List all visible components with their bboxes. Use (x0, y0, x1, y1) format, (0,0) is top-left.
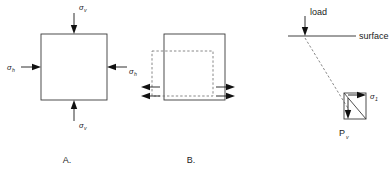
panel-b-original-outline (152, 51, 213, 96)
panel-a-left-stress-subscript: h (12, 67, 15, 73)
panel-a-top-arrow (71, 13, 77, 34)
panel-b-deformed-square (164, 34, 225, 100)
panel-a-caption: A. (63, 155, 72, 165)
panel-b: B. (141, 34, 235, 165)
panel-c-vertical-pressure-symbol: P (339, 128, 345, 138)
panel-b-right-shear-arrows (216, 84, 235, 99)
panel-a-bottom-arrow (71, 100, 77, 121)
panel-b-caption: B. (187, 155, 196, 165)
panel-a-element-square (41, 34, 107, 100)
panel-c-principal-stress-subscript: 1 (375, 96, 378, 102)
panel-a-right-arrow (107, 64, 127, 70)
stress-diagram-canvas: σ v σ v σ h σ h A. (0, 0, 391, 183)
panel-a: σ v σ v σ h σ h A. (7, 3, 137, 165)
panel-a-right-stress-subscript: h (134, 71, 137, 77)
panel-c-load-label: load (310, 7, 327, 17)
panel-c-vertical-pressure-arrow (345, 98, 351, 119)
panel-c: surface load σ 1 P (288, 7, 389, 140)
panel-b-left-shear-arrows (141, 84, 160, 99)
panel-c-stress-path (305, 38, 349, 110)
panel-c-load-arrow (302, 16, 308, 36)
panel-a-bottom-stress-subscript: v (84, 125, 87, 131)
panel-a-top-stress-subscript: v (84, 7, 87, 13)
panel-c-surface-label: surface (359, 31, 389, 41)
panel-a-left-arrow (21, 64, 41, 70)
panel-c-vertical-pressure-subscript: v (346, 134, 349, 140)
figure-root: σ v σ v σ h σ h A. (0, 0, 391, 183)
